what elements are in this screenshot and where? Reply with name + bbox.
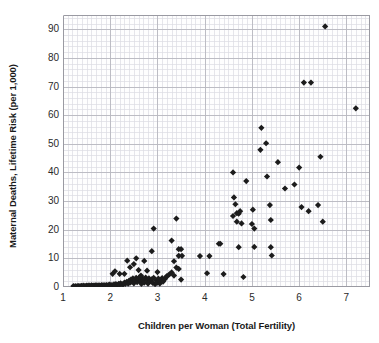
x-tick-label: 3	[147, 293, 167, 303]
data-point	[301, 79, 307, 85]
data-point	[269, 252, 275, 258]
data-points-layer	[63, 15, 370, 287]
data-point	[320, 219, 326, 225]
scatter-chart-figure: Maternal Deaths, Lifetime Risk (per 1,00…	[0, 0, 379, 343]
data-point	[291, 181, 297, 187]
x-tick-label: 7	[336, 293, 356, 303]
data-point	[268, 244, 274, 250]
x-tick-label: 1	[53, 293, 73, 303]
data-point	[268, 217, 274, 223]
y-tick-label: 90	[33, 24, 59, 34]
data-point	[231, 194, 237, 200]
data-point	[135, 267, 141, 273]
data-point	[264, 173, 270, 179]
data-point	[133, 255, 139, 261]
data-point	[267, 202, 273, 208]
data-point	[144, 268, 150, 274]
x-tick-label: 4	[195, 293, 215, 303]
data-point	[173, 215, 179, 221]
data-point	[204, 270, 210, 276]
data-point	[257, 147, 263, 153]
data-point	[124, 258, 130, 264]
x-tick-label: 5	[242, 293, 262, 303]
data-point	[306, 208, 312, 214]
y-tick-label: 0	[33, 282, 59, 292]
data-point	[171, 258, 177, 264]
data-point	[315, 202, 321, 208]
data-point	[308, 79, 314, 85]
y-tick-label: 50	[33, 139, 59, 149]
data-point	[141, 258, 147, 264]
y-tick-label: 70	[33, 82, 59, 92]
data-point	[232, 201, 238, 207]
plot-area	[63, 15, 370, 287]
data-point	[169, 238, 175, 244]
data-point	[151, 225, 157, 231]
y-tick-label: 60	[33, 110, 59, 120]
data-point	[197, 253, 203, 259]
y-axis-tick-labels: 0102030405060708090	[29, 0, 59, 343]
y-tick-label: 10	[33, 253, 59, 263]
data-point	[353, 105, 359, 111]
y-axis-title: Maternal Deaths, Lifetime Risk (per 1,00…	[4, 16, 22, 296]
data-point	[206, 253, 212, 259]
x-tick-label: 2	[100, 293, 120, 303]
data-point	[322, 23, 328, 29]
data-point	[251, 244, 257, 250]
data-point	[230, 169, 236, 175]
data-point	[149, 248, 155, 254]
y-tick-label: 30	[33, 196, 59, 206]
data-point	[263, 140, 269, 146]
x-axis-tick-labels: 1234567	[63, 293, 370, 307]
data-point	[178, 276, 184, 282]
data-point	[236, 244, 242, 250]
data-point	[250, 207, 256, 213]
data-point	[154, 269, 160, 275]
data-point	[243, 178, 249, 184]
y-tick-label: 40	[33, 167, 59, 177]
x-tick-label: 6	[289, 293, 309, 303]
data-point	[121, 271, 127, 277]
data-point	[275, 159, 281, 165]
x-axis-title: Children per Woman (Total Fertility)	[63, 320, 370, 331]
data-point	[220, 271, 226, 277]
y-tick-label: 80	[33, 53, 59, 63]
data-point	[240, 274, 246, 280]
data-point	[179, 253, 185, 259]
y-tick-label: 20	[33, 225, 59, 235]
data-point	[317, 154, 323, 160]
data-point	[298, 204, 304, 210]
data-point	[258, 125, 264, 131]
data-point	[296, 165, 302, 171]
data-point	[282, 185, 288, 191]
